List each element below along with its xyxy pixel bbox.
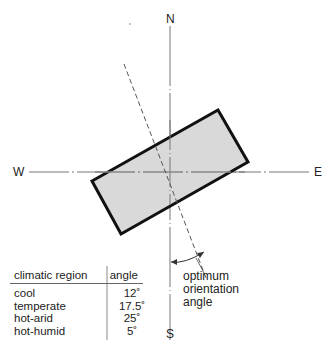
region-cell: hot-arid xyxy=(10,312,111,325)
optimum-angle-annotation: optimum orientation angle xyxy=(183,270,239,309)
region-cell: temperate xyxy=(10,300,111,313)
table-row: cool 12˚ xyxy=(10,287,153,300)
north-label: N xyxy=(166,12,175,26)
south-label: S xyxy=(166,327,174,341)
annotation-line: angle xyxy=(183,296,239,309)
region-cell: cool xyxy=(10,287,111,300)
angle-cell: 25˚ xyxy=(111,312,153,325)
angle-cell: 17.5˚ xyxy=(111,300,153,313)
angle-cell: 12˚ xyxy=(111,287,153,300)
west-label: W xyxy=(13,165,24,179)
region-cell: hot-humid xyxy=(10,325,111,338)
east-label: E xyxy=(314,165,322,179)
angle-cell: 5˚ xyxy=(111,325,153,338)
header-region: climatic region xyxy=(10,269,104,281)
table-row: hot-arid 25˚ xyxy=(10,312,153,325)
table-row: temperate 17.5˚ xyxy=(10,300,153,313)
table-header: climatic region angle xyxy=(10,266,143,284)
table-row: hot-humid 5˚ xyxy=(10,325,153,338)
climate-angle-table: climatic region angle cool 12˚ temperate… xyxy=(10,266,153,337)
header-angle: angle xyxy=(104,269,143,281)
